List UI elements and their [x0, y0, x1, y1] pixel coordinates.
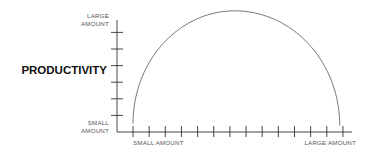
y-bottom-label-line-2: AMOUNT [81, 127, 109, 134]
inverted-u-chart: LARGE AMOUNT SMALL AMOUNT PRODUCTIVITY S… [0, 0, 370, 160]
axes [111, 20, 352, 137]
productivity-curve [133, 11, 340, 126]
y-bottom-label-line-1: SMALL [88, 119, 110, 126]
y-axis-title: PRODUCTIVITY [21, 64, 107, 76]
x-right-label: LARGE AMOUNT [304, 139, 356, 146]
y-top-label-line-2: AMOUNT [81, 20, 109, 27]
x-ticks [133, 126, 343, 137]
y-top-label-line-1: LARGE [87, 12, 109, 19]
x-left-label: SMALL AMOUNT [133, 139, 184, 146]
